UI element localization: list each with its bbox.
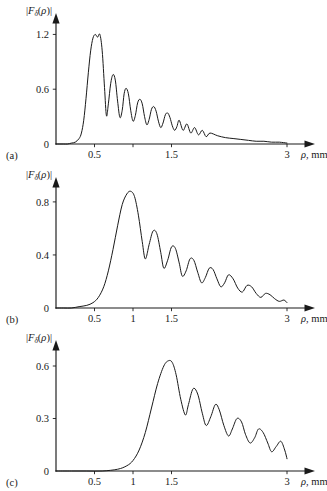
- x-axis-label: ρ, mm: [300, 476, 327, 487]
- x-tick-label: 1.5: [165, 149, 178, 160]
- data-curve: [56, 360, 287, 471]
- y-tick-label: 0.3: [36, 413, 49, 424]
- panel-tag: (c): [6, 477, 18, 489]
- y-tick-label: 0: [44, 139, 49, 150]
- x-axis-arrow: [305, 304, 316, 311]
- panel-tag: (b): [6, 314, 19, 326]
- y-axis-arrow: [52, 13, 59, 24]
- y-tick-label: 0.8: [36, 197, 49, 208]
- x-tick-label: 0.5: [88, 149, 101, 160]
- data-curve: [56, 34, 287, 144]
- x-tick-label: 1.5: [165, 313, 178, 324]
- y-tick-label: 0: [44, 466, 49, 477]
- figure-three-panel-plot: 0.51.5300.61.2|Fδ(ρ)|ρ, mm(a) 0.511.5300…: [0, 0, 327, 491]
- x-axis-label: ρ, mm: [300, 313, 327, 324]
- x-tick-label: 1: [130, 476, 135, 487]
- x-tick-label: 3: [284, 476, 289, 487]
- x-tick-label: 3: [284, 313, 289, 324]
- x-tick-label: 0.5: [88, 476, 101, 487]
- y-axis-label: |Fδ(ρ)|: [26, 5, 52, 18]
- data-curve: [56, 191, 287, 308]
- plot-svg: 0.51.5300.61.2|Fδ(ρ)|ρ, mm(a): [0, 0, 327, 164]
- x-tick-label: 1: [130, 313, 135, 324]
- y-tick-label: 0.6: [36, 84, 49, 95]
- x-tick-label: 3: [284, 149, 289, 160]
- plot-panel-c: 0.511.5300.30.6|Fδ(ρ)|ρ, mm(c): [0, 327, 327, 491]
- plot-svg: 0.511.5300.40.8|Fδ(ρ)|ρ, mm(b): [0, 164, 327, 328]
- x-tick-label: 1.5: [165, 476, 178, 487]
- x-axis-arrow: [305, 140, 316, 147]
- y-axis-arrow: [52, 340, 59, 351]
- plot-panel-b: 0.511.5300.40.8|Fδ(ρ)|ρ, mm(b): [0, 164, 327, 328]
- y-tick-label: 0.6: [36, 361, 49, 372]
- x-axis-arrow: [305, 467, 316, 474]
- y-tick-label: 0: [44, 303, 49, 314]
- y-axis-label: |Fδ(ρ)|: [26, 169, 52, 182]
- panel-tag: (a): [6, 150, 18, 162]
- x-axis-label: ρ, mm: [300, 149, 327, 160]
- plot-panel-a: 0.51.5300.61.2|Fδ(ρ)|ρ, mm(a): [0, 0, 327, 164]
- y-tick-label: 0.4: [36, 250, 50, 261]
- y-axis-label: |Fδ(ρ)|: [26, 332, 52, 345]
- plot-svg: 0.511.5300.30.6|Fδ(ρ)|ρ, mm(c): [0, 327, 327, 491]
- y-tick-label: 1.2: [36, 29, 49, 40]
- x-tick-label: 0.5: [88, 313, 101, 324]
- y-axis-arrow: [52, 177, 59, 188]
